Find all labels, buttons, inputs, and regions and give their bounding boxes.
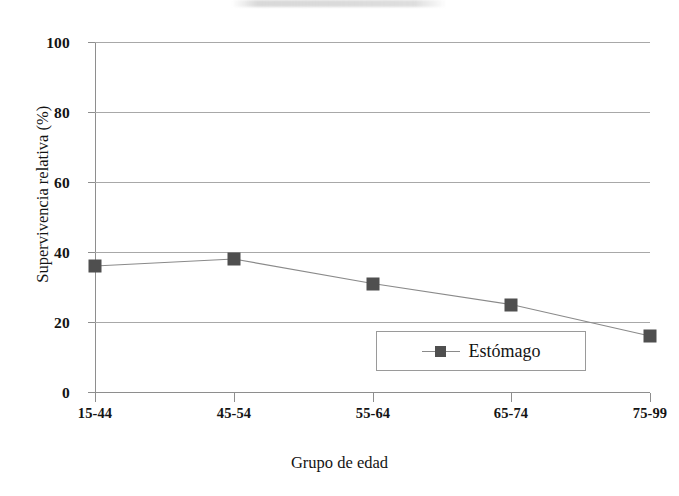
x-tick-label-65-74: 65-74 [494, 406, 528, 421]
legend: Estómago [376, 331, 586, 371]
x-tick-mark-0 [95, 393, 96, 402]
y-tick-label-0: 0 [24, 385, 70, 401]
chart-container: 100 80 60 40 20 0 15-44 45-54 55-64 65-7… [0, 0, 679, 496]
scan-artifact-smudge [232, 0, 447, 7]
x-tick-label-55-64: 55-64 [356, 406, 390, 421]
legend-marker-square-icon [422, 345, 460, 358]
x-tick-label-75-99: 75-99 [633, 406, 667, 421]
data-point-marker [366, 277, 379, 290]
x-tick-label-15-44: 15-44 [78, 406, 112, 421]
x-tick-mark-1 [234, 393, 235, 402]
legend-item-estomago: Estómago [422, 342, 541, 360]
x-tick-mark-2 [373, 393, 374, 402]
data-point-marker [227, 253, 240, 266]
x-tick-mark-4 [650, 393, 651, 402]
legend-item-label: Estómago [469, 342, 541, 360]
data-point-marker [644, 330, 657, 343]
x-axis-title: Grupo de edad [0, 455, 679, 472]
data-point-marker [89, 260, 102, 273]
y-axis-title: Supervivencia relativa (%) [35, 44, 52, 344]
data-point-marker [505, 298, 518, 311]
x-tick-mark-3 [511, 393, 512, 402]
x-tick-label-45-54: 45-54 [217, 406, 251, 421]
